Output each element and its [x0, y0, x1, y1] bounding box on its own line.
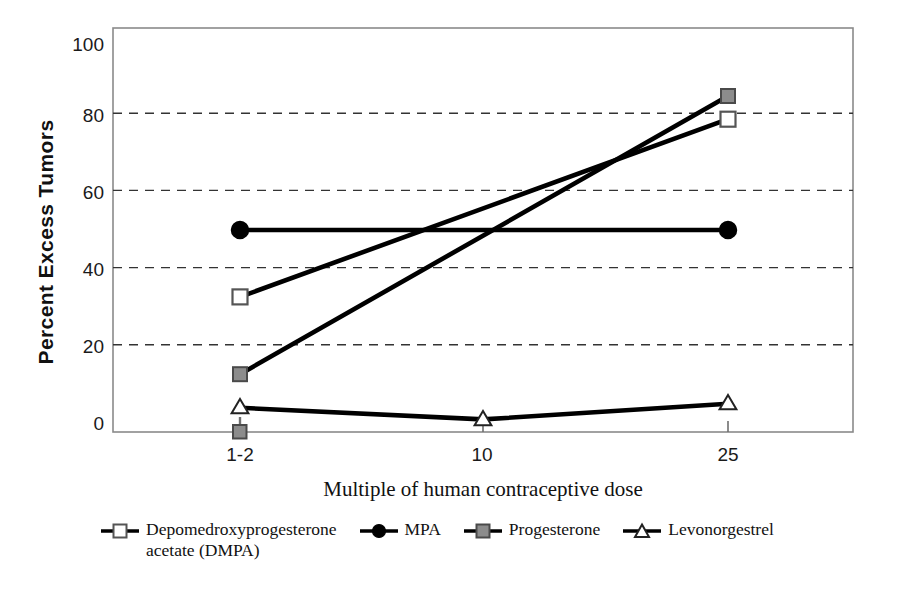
gray-square-icon — [463, 521, 503, 541]
extra-point-progesterone-zero — [233, 417, 247, 439]
open-triangle-icon — [622, 521, 662, 541]
filled-circle-icon — [359, 521, 399, 541]
legend-item-levonorgestrel: Levonorgestrel — [622, 519, 774, 541]
legend-label-levonorgestrel: Levonorgestrel — [668, 519, 774, 540]
legend-item-progesterone: Progesterone — [463, 519, 600, 541]
plot-area — [0, 0, 897, 592]
marker-progesterone-1-2 — [233, 367, 247, 381]
open-square-icon — [100, 521, 140, 541]
series-levonorgestrel — [232, 395, 737, 425]
chart-legend: Depomedroxyprogesterone acetate (DMPA) M… — [100, 519, 890, 560]
legend-item-dmpa: Depomedroxyprogesterone acetate (DMPA) — [100, 519, 337, 560]
marker-progesterone-25 — [721, 89, 735, 103]
marker-dmpa-1-2 — [233, 289, 248, 304]
legend-label-mpa: MPA — [405, 519, 441, 540]
legend-item-mpa: MPA — [359, 519, 441, 541]
legend-label-dmpa: Depomedroxyprogesterone acetate (DMPA) — [146, 519, 337, 560]
marker-mpa-1-2 — [232, 222, 249, 239]
marker-dmpa-25 — [721, 112, 736, 127]
chart-figure: Percent Excess Tumors 100 80 60 40 20 0 … — [0, 0, 897, 592]
series-progesterone — [233, 89, 735, 381]
legend-label-progesterone: Progesterone — [509, 519, 600, 540]
marker-mpa-25 — [720, 222, 737, 239]
series-dmpa — [233, 112, 736, 305]
